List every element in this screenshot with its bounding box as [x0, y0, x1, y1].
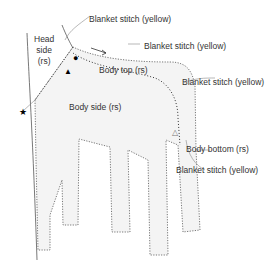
open-triangle-marker-icon: △	[172, 129, 178, 137]
body-side-label: Body side (rs)	[69, 103, 121, 112]
filled-triangle-marker-icon: ▲	[64, 68, 72, 76]
star-marker-icon: ★	[19, 108, 27, 117]
body-side-outline	[35, 47, 200, 255]
stitch-label-2: Blanket stitch (yellow)	[144, 42, 226, 51]
head-side-label: Head side (rs)	[34, 34, 54, 67]
stitch-label-1: Blanket stitch (yellow)	[89, 15, 171, 24]
circle-marker-icon: ●	[73, 54, 78, 63]
stitch-label-4: Blanket stitch (yellow)	[176, 166, 258, 175]
stitch-label-3: Blanket stitch (yellow)	[182, 78, 264, 87]
body-top-label: Body top (rs)	[99, 66, 148, 75]
body-bottom-label: Body bottom (rs)	[186, 145, 249, 154]
head-side-edge	[27, 33, 37, 260]
